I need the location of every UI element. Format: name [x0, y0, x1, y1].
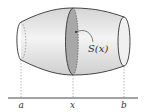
- label-b: b: [121, 100, 127, 110]
- diagram-canvas: S(x) a x b: [0, 0, 145, 112]
- left-end-front: [17, 22, 21, 60]
- right-end-face: [118, 17, 130, 66]
- solid-figure: S(x) a x b: [0, 0, 145, 112]
- label-a: a: [19, 100, 24, 110]
- label-x: x: [70, 100, 75, 110]
- label-cross-section: S(x): [88, 43, 108, 54]
